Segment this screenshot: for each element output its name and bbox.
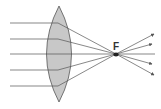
lens-diagram: F [0, 0, 161, 109]
focal-label: F [113, 41, 119, 52]
outgoing-rays [116, 34, 155, 75]
focal-point [113, 53, 118, 57]
